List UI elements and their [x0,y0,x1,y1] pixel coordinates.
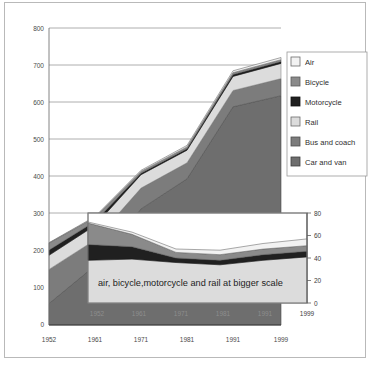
y-tick-500: 500 [33,136,44,143]
inset-x-tick-1999: 1999 [300,310,315,317]
inset-x-tick-1981: 1981 [216,310,231,317]
y-tick-600: 600 [33,99,44,106]
inset-y-tick-20: 20 [314,277,322,284]
x-tick-1991: 1991 [226,336,241,343]
y-axis-tick-labels: 800 700 600 500 400 300 200 100 0 [33,25,44,329]
inset-x-tick-1971: 1971 [174,310,189,317]
y-tick-200: 200 [33,247,44,254]
inset-y-tick-60: 60 [314,232,322,239]
x-tick-1971: 1971 [134,336,149,343]
inset-y-tick-40: 40 [314,255,322,262]
legend-swatch-motorcycle [291,97,300,106]
legend: Air Bicycle Motorcycle Rail Bus and coac… [287,52,367,176]
stacked-area-chart: 800 700 600 500 400 300 200 100 0 1952 1… [0,0,372,373]
x-tick-1961: 1961 [88,336,103,343]
legend-swatch-bus-and-coach [291,137,300,146]
legend-label-car-and-van: Car and van [305,158,346,167]
y-tick-300: 300 [33,210,44,217]
x-tick-1981: 1981 [180,336,195,343]
legend-item-car-and-van[interactable]: Car and van [291,157,346,167]
y-tick-0: 0 [40,321,44,328]
y-tick-800: 800 [33,25,44,32]
inset-caption: air, bicycle,motorcycle and rail at bigg… [98,278,283,288]
x-axis-tick-labels: 1952 1961 1971 1981 1991 1999 [42,336,289,343]
legend-label-rail: Rail [305,118,318,127]
inset-x-tick-1952: 1952 [90,310,105,317]
x-tick-1952: 1952 [42,336,57,343]
x-tick-1999: 1999 [274,336,289,343]
inset-chart: 0 20 40 60 80 1952 1961 1971 1981 1991 1… [88,210,322,318]
inset-x-tick-1991: 1991 [258,310,273,317]
legend-swatch-air [291,57,300,66]
inset-y-tick-80: 80 [314,210,322,217]
legend-item-rail[interactable]: Rail [291,117,318,127]
legend-swatch-car-and-van [291,157,300,166]
y-tick-700: 700 [33,62,44,69]
inset-y-axis: 0 20 40 60 80 [307,210,322,307]
chart-page: 800 700 600 500 400 300 200 100 0 1952 1… [0,0,372,373]
y-tick-100: 100 [33,284,44,291]
legend-label-bicycle: Bicycle [305,78,329,87]
legend-item-motorcycle[interactable]: Motorcycle [291,97,342,107]
legend-label-bus-and-coach: Bus and coach [305,138,355,147]
legend-label-motorcycle: Motorcycle [305,98,342,107]
legend-swatch-bicycle [291,77,300,86]
y-tick-400: 400 [33,173,44,180]
legend-label-air: Air [305,58,315,67]
legend-swatch-rail [291,117,300,126]
legend-item-bicycle[interactable]: Bicycle [291,77,329,87]
inset-y-tick-0: 0 [314,300,318,307]
inset-x-tick-1961: 1961 [132,310,147,317]
